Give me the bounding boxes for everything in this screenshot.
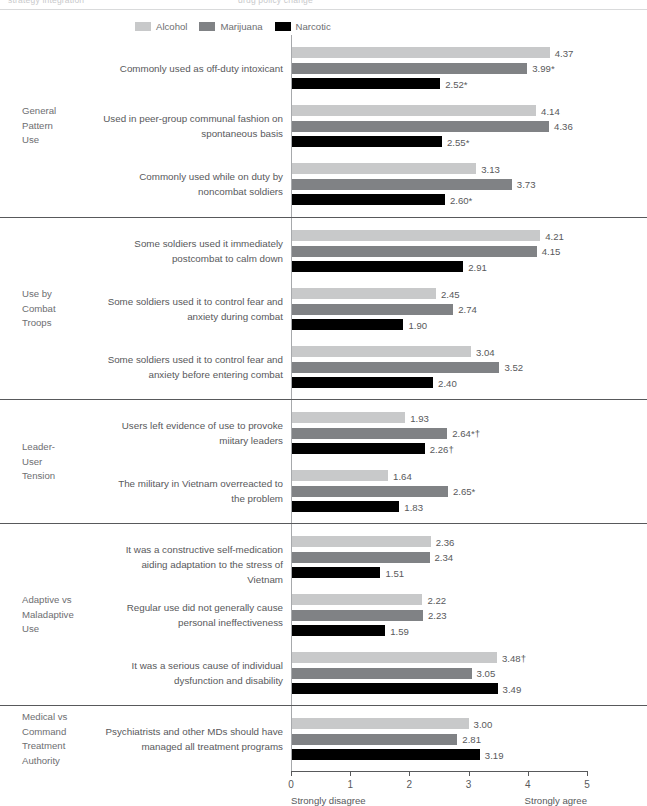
bar-value-label: 3.99*: [532, 63, 554, 74]
bar-value-label: 2.91: [468, 261, 487, 272]
zero-baseline: [291, 35, 292, 217]
bar-group-label: Some soldiers used it to control fear an…: [103, 294, 283, 324]
bar-group-label: Commonly used as off-duty intoxicant: [103, 61, 283, 76]
bar-value-label: 3.13: [481, 163, 500, 174]
bar-value-label: 3.49: [503, 683, 522, 694]
bar-value-label: 3.04: [476, 346, 495, 357]
axis-tick: [409, 771, 410, 776]
bar-value-label: 4.14: [541, 105, 560, 116]
axis-tick-label: 4: [525, 779, 531, 790]
bar-value-label: 4.36: [554, 121, 573, 132]
legend-swatch-icon: [199, 22, 215, 31]
bar-value-label: 3.19: [485, 749, 504, 760]
bar-group: Regular use did not generally cause pers…: [0, 594, 647, 636]
section-label: Use by Combat Troops: [22, 287, 56, 331]
bar-group-label: Some soldiers used it immediately postco…: [103, 236, 283, 266]
bar-value-label: 1.83: [404, 501, 423, 512]
bar-group: Users left evidence of use to provoke mi…: [0, 412, 647, 454]
axis-tick: [587, 771, 588, 776]
bar-group: Some soldiers used it to control fear an…: [0, 346, 647, 388]
bar-value-label: 2.52*: [445, 78, 467, 89]
bar-marijuana: 2.23: [291, 610, 423, 621]
bar-value-label: 2.23: [428, 610, 447, 621]
bar-narcotic: 2.91: [291, 261, 463, 272]
grouped-bar-chart: AlcoholMarijuanaNarcotic Commonly used a…: [0, 12, 647, 717]
bar-marijuana: 3.99*: [291, 63, 527, 74]
bar-value-label: 2.64*†: [452, 428, 480, 439]
legend-swatch-icon: [275, 22, 291, 31]
cut-off-header-left: strategy integration: [8, 0, 84, 5]
bar-narcotic: 1.59: [291, 625, 385, 636]
bar-marijuana: 3.73: [291, 179, 512, 190]
bar-group: Used in peer-group communal fashion on s…: [0, 105, 647, 147]
bar-value-label: 3.48†: [502, 652, 526, 663]
zero-baseline: [291, 218, 292, 400]
bar-marijuana: 3.05: [291, 668, 472, 679]
section-label: Adaptive vs Maladaptive Use: [22, 593, 74, 637]
bar-group: It was a serious cause of individual dys…: [0, 652, 647, 694]
bar-marijuana: 3.52: [291, 362, 499, 373]
bar-value-label: 2.65*: [453, 486, 475, 497]
bar-value-label: 2.74: [458, 304, 477, 315]
bar-value-label: 2.60*: [450, 194, 472, 205]
bar-narcotic: 2.60*: [291, 194, 445, 205]
legend-label: Narcotic: [296, 21, 331, 32]
bar-alcohol: 3.04: [291, 346, 471, 357]
bar-value-label: 2.22: [427, 594, 446, 605]
bar-group-label: Used in peer-group communal fashion on s…: [103, 111, 283, 141]
bar-value-label: 2.34: [435, 552, 454, 563]
bar-value-label: 1.93: [410, 412, 429, 423]
bar-narcotic: 2.40: [291, 377, 433, 388]
bar-alcohol: 1.93: [291, 412, 405, 423]
bar-marijuana: 2.81: [291, 734, 457, 745]
bar-alcohol: 4.21: [291, 230, 540, 241]
bar-group-label: The military in Vietnam overreacted to t…: [103, 476, 283, 506]
chart-legend: AlcoholMarijuanaNarcotic: [135, 21, 331, 32]
chart-section: Some soldiers used it immediately postco…: [0, 217, 647, 399]
bar-value-label: 2.40: [438, 377, 457, 388]
bar-group: Psychiatrists and other MDs should have …: [0, 718, 647, 760]
chart-section: It was a constructive self-medication ai…: [0, 523, 647, 705]
legend-item-marijuana: Marijuana: [199, 21, 262, 32]
axis-tick-label: 0: [288, 779, 294, 790]
axis-tick: [528, 771, 529, 776]
legend-item-alcohol: Alcohol: [135, 21, 187, 32]
bar-group-label: Psychiatrists and other MDs should have …: [103, 724, 283, 754]
bar-value-label: 2.45: [441, 288, 460, 299]
bar-alcohol: 4.14: [291, 105, 536, 116]
bar-group: Some soldiers used it to control fear an…: [0, 288, 647, 330]
bar-narcotic: 2.26†: [291, 443, 425, 454]
axis-tick: [469, 771, 470, 776]
bar-group-label: Commonly used while on duty by noncombat…: [103, 169, 283, 199]
bar-marijuana: 2.65*: [291, 486, 448, 497]
cut-off-header-strip: strategy integration drug policy change: [0, 0, 647, 9]
bar-narcotic: 1.51: [291, 567, 380, 578]
section-label: General Pattern Use: [22, 104, 56, 148]
legend-label: Alcohol: [156, 21, 187, 32]
bar-marijuana: 4.36: [291, 121, 549, 132]
bar-alcohol: 2.36: [291, 536, 431, 547]
bar-value-label: 2.26†: [430, 443, 454, 454]
axis-tick-label: 3: [466, 779, 472, 790]
bar-group-label: Some soldiers used it to control fear an…: [103, 352, 283, 382]
bar-narcotic: 1.90: [291, 319, 403, 330]
bar-marijuana: 2.74: [291, 304, 453, 315]
bar-value-label: 1.59: [390, 625, 409, 636]
chart-section: Psychiatrists and other MDs should have …: [0, 705, 647, 771]
bar-alcohol: 3.13: [291, 163, 476, 174]
bar-group-label: Users left evidence of use to provoke mi…: [103, 418, 283, 448]
bar-group: The military in Vietnam overreacted to t…: [0, 470, 647, 512]
bar-group: Commonly used as off-duty intoxicant4.37…: [0, 47, 647, 89]
zero-baseline: [291, 400, 292, 524]
bar-value-label: 3.00: [474, 718, 493, 729]
bar-value-label: 1.51: [385, 567, 404, 578]
bar-value-label: 2.81: [462, 734, 481, 745]
bar-value-label: 2.55*: [447, 136, 469, 147]
chart-section: Commonly used as off-duty intoxicant4.37…: [0, 35, 647, 217]
bar-alcohol: 4.37: [291, 47, 550, 58]
bar-value-label: 3.52: [504, 362, 523, 373]
bar-alcohol: 2.22: [291, 594, 422, 605]
bar-value-label: 4.15: [542, 246, 561, 257]
zero-baseline: [291, 524, 292, 706]
bar-group: It was a constructive self-medication ai…: [0, 536, 647, 578]
